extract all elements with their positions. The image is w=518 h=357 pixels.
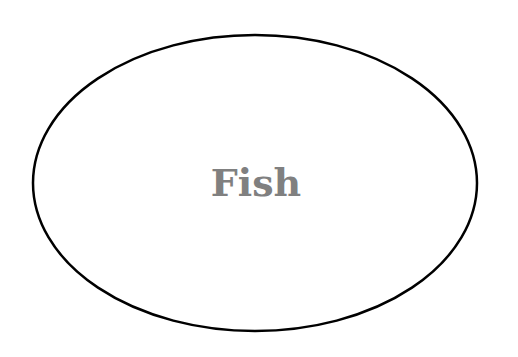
diagram-canvas: Fish [0,0,518,357]
ellipse-label: Fish [211,160,301,205]
